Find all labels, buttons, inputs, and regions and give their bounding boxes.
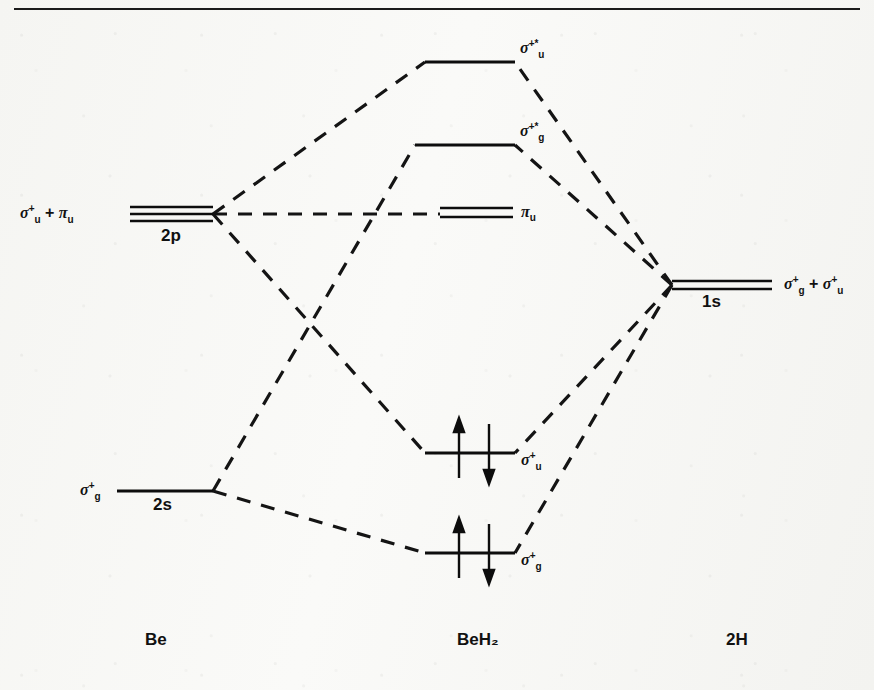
sigma-sub-sustar: u: [538, 49, 544, 60]
sigma-glyph-sgb: σ: [521, 551, 530, 568]
orbital-label-sigma-u-star: σ+*u: [520, 38, 544, 60]
sigma2-sub-right1s: u: [837, 285, 843, 296]
corr-1s-to-sigma-u-star: [515, 62, 672, 285]
spin-down-arrow-head-su: [484, 470, 494, 484]
column-label-beh2: BeH₂: [457, 630, 499, 650]
be-atomic-levels-group: [117, 207, 213, 491]
orbital-label-left-2s: σ+g: [80, 480, 101, 502]
spin-up-arrow-head-sg: [454, 518, 464, 532]
spin-up-arrow-head-su: [454, 418, 464, 432]
orbital-label-pi-u: πu: [521, 203, 536, 223]
electron-pair-sigma-u-bonding: [454, 418, 494, 484]
corr-2s-to-sigma-g-star: [213, 145, 415, 491]
corr-2s-to-sigma-g-bonding: [213, 491, 425, 553]
sigma-sup-sgb: +: [530, 550, 536, 561]
sigma-sub-sub: u: [535, 461, 541, 472]
shell-label-2s: 2s: [153, 495, 172, 515]
sigma-sub-sgb: g: [535, 561, 541, 572]
orbital-label-sigma-g-bonding: σ+g: [521, 550, 542, 572]
corr-1s-to-sigma-u-bonding: [515, 285, 672, 453]
correlation-lines-group: [213, 62, 672, 553]
mo-diagram-svg: [0, 0, 874, 690]
corr-1s-to-sigma-g-star: [515, 145, 672, 285]
h-atomic-levels-group: [672, 281, 772, 289]
figure-page: σ+u + πu σ+g σ+g + σ+u σ+*u σ+*g πu σ+u …: [0, 0, 874, 690]
corr-2p-to-sigma-u-star: [213, 62, 425, 214]
pi-sub-left2p: u: [68, 214, 74, 225]
sigma-sup-sub: +: [530, 450, 536, 461]
pi-glyph-piu: π: [521, 203, 530, 220]
sigma-glyph-sub: σ: [521, 451, 530, 468]
shell-label-2p: 2p: [161, 226, 181, 246]
sigma2-sup-right1s: +: [831, 274, 837, 285]
electron-pair-sigma-g-bonding: [454, 518, 494, 584]
sigma-sup-sgstar: +*: [529, 121, 539, 132]
electron-arrows-group: [454, 418, 494, 584]
sigma-sup-left2p: +: [29, 203, 35, 214]
sigma1-sup-right1s: +: [793, 274, 799, 285]
sigma-sup-left2s: +: [89, 480, 95, 491]
join-left2p: +: [41, 204, 59, 221]
sigma-sub-sgstar: g: [538, 132, 544, 143]
pi-sub-piu: u: [530, 212, 536, 223]
orbital-label-right-1s: σ+g + σ+u: [784, 274, 843, 296]
sigma-glyph-sustar: σ: [520, 39, 529, 56]
orbital-label-sigma-g-star: σ+*g: [520, 121, 544, 143]
corr-2p-to-sigma-u-bonding: [213, 214, 425, 453]
sigma-glyph-left2p: σ: [20, 204, 29, 221]
orbital-label-left-2p: σ+u + πu: [20, 203, 74, 225]
sigma1-glyph-right1s: σ: [784, 275, 793, 292]
column-label-2h: 2H: [726, 630, 748, 650]
pi-glyph-left2p: π: [59, 204, 68, 221]
sigma-glyph-sgstar: σ: [520, 122, 529, 139]
sigma-glyph-left2s: σ: [80, 481, 89, 498]
corr-1s-to-sigma-g-bonding: [515, 285, 672, 553]
spin-down-arrow-head-sg: [484, 570, 494, 584]
molecular-levels-group: [415, 62, 515, 553]
sigma-sub-left2s: g: [94, 491, 100, 502]
join-right1s: +: [805, 275, 823, 292]
orbital-label-sigma-u-bonding: σ+u: [521, 450, 542, 472]
column-label-be: Be: [145, 630, 167, 650]
shell-label-1s: 1s: [702, 292, 721, 312]
sigma-sup-sustar: +*: [529, 38, 539, 49]
